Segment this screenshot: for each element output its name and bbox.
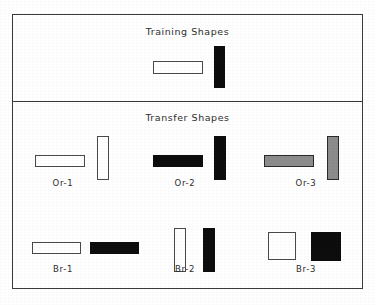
group-label-br-3: Br-3 <box>276 264 336 274</box>
br3-black-square <box>311 232 341 261</box>
br1-horizontal-black-bar <box>90 242 139 254</box>
training-shapes-panel: Training Shapes <box>12 14 363 102</box>
group-label-br-2: Br-2 <box>155 264 215 274</box>
training-panel-title: Training Shapes <box>13 26 362 37</box>
or1-vertical-white-bar <box>97 136 109 180</box>
group-label-or-2: Or-2 <box>155 178 215 188</box>
br1-horizontal-white-bar <box>32 242 81 254</box>
group-label-br-1: Br-1 <box>33 264 93 274</box>
transfer-panel-title: Transfer Shapes <box>13 112 362 123</box>
or2-vertical-black-bar <box>214 136 226 180</box>
or2-horizontal-black-bar <box>153 155 203 167</box>
or3-horizontal-gray-bar <box>264 155 314 167</box>
group-label-or-3: Or-3 <box>276 178 336 188</box>
or3-vertical-gray-bar <box>327 136 339 180</box>
training-horizontal-white-bar <box>153 61 203 74</box>
or1-horizontal-white-bar <box>35 155 85 167</box>
figure-plate: Training Shapes Transfer Shapes Or-1Or-2… <box>0 0 376 305</box>
training-vertical-black-bar <box>214 46 225 88</box>
br3-white-square <box>268 232 296 260</box>
group-label-or-1: Or-1 <box>33 178 93 188</box>
